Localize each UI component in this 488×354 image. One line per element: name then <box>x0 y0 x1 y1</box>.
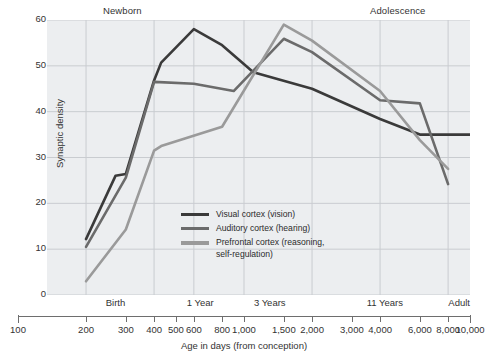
x-axis-numeric: 1002003004005006008001,0001,5002,0003,00… <box>0 316 488 354</box>
y-axis-title: Synaptic density <box>54 74 65 194</box>
x-tick-label: 6,000 <box>408 324 432 335</box>
x-tick-label: 400 <box>146 324 162 335</box>
y-tick-label: 30 <box>6 152 46 162</box>
x-tick-mark <box>244 316 245 322</box>
legend-swatch-visual-cortex <box>181 213 209 216</box>
legend-label-auditory-cortex: Auditory cortex (hearing) <box>216 223 310 235</box>
x-tick-label: 1,500 <box>272 324 296 335</box>
x-tick-label: 300 <box>118 324 134 335</box>
x-tick-mark <box>154 316 155 322</box>
y-tick-label: 0 <box>6 289 46 299</box>
legend-item-visual-cortex: Visual cortex (vision) <box>181 209 324 221</box>
legend-swatch-prefrontal-cortex <box>181 241 209 244</box>
y-tick-label: 60 <box>6 14 46 24</box>
x-tick-label: 100 <box>10 324 26 335</box>
x-tick-mark <box>380 316 381 322</box>
x-tick-label: 200 <box>78 324 94 335</box>
x-tick-label: 1,000 <box>232 324 256 335</box>
x-tick-label: 500 <box>168 324 184 335</box>
x-tick-mark <box>448 316 449 322</box>
x-tick-label: 600 <box>186 324 202 335</box>
x-tick-label: 2,000 <box>300 324 324 335</box>
chart-legend: Visual cortex (vision) Auditory cortex (… <box>181 209 324 263</box>
series-line-0 <box>86 29 470 239</box>
x-stage-label: 3 Years <box>254 297 286 308</box>
legend-label-visual-cortex: Visual cortex (vision) <box>216 209 295 221</box>
legend-item-prefrontal-cortex: Prefrontal cortex (reasoning, self-regul… <box>181 237 324 260</box>
x-tick-label: 10,000 <box>455 324 484 335</box>
plot-area: 6050403020100 Synaptic density Visual co… <box>47 20 470 295</box>
x-tick-mark <box>222 316 223 322</box>
legend-swatch-auditory-cortex <box>181 227 209 230</box>
legend-label-prefrontal-cortex: Prefrontal cortex (reasoning, self-regul… <box>216 237 324 260</box>
x-stage-label: Birth <box>106 297 126 308</box>
x-tick-mark <box>126 316 127 322</box>
x-stage-label: 1 Year <box>187 297 214 308</box>
x-stage-label: 11 Years <box>367 297 403 308</box>
x-tick-mark <box>470 315 471 323</box>
x-tick-mark <box>18 315 19 323</box>
x-tick-mark <box>352 316 353 322</box>
x-tick-mark <box>194 316 195 322</box>
x-tick-mark <box>312 316 313 322</box>
x-tick-mark <box>176 316 177 322</box>
x-tick-mark <box>86 316 87 322</box>
y-tick-label: 20 <box>6 197 46 207</box>
y-tick-label: 50 <box>6 60 46 70</box>
x-tick-label: 4,000 <box>368 324 392 335</box>
x-axis-title: Age in days (from conception) <box>0 340 488 351</box>
y-tick-label: 40 <box>6 106 46 116</box>
chart-root: Newborn Adolescence 6050403020100 Synapt… <box>0 0 488 354</box>
x-stage-label: Adult <box>448 297 470 308</box>
x-tick-label: 800 <box>214 324 230 335</box>
legend-item-auditory-cortex: Auditory cortex (hearing) <box>181 223 324 235</box>
x-tick-label: 3,000 <box>340 324 364 335</box>
x-tick-mark <box>420 316 421 322</box>
annotation-adolescence: Adolescence <box>370 5 426 16</box>
x-tick-mark <box>284 316 285 322</box>
annotation-newborn: Newborn <box>103 5 142 16</box>
y-tick-label: 10 <box>6 243 46 253</box>
